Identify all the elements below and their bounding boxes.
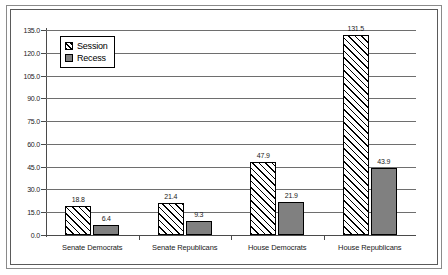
bar-session (65, 206, 91, 235)
x-axis-category-label: Senate Republicans (152, 243, 217, 252)
bar-value-label: 9.3 (194, 211, 203, 218)
x-axis-category-label: Senate Democrats (62, 243, 123, 252)
bar-session (343, 35, 369, 235)
x-axis-category-label: House Republicans (338, 243, 401, 252)
bar-recess (278, 202, 304, 235)
bar-recess (371, 168, 397, 235)
x-axis-tick (324, 235, 325, 240)
bar-session (250, 162, 276, 235)
legend-swatch-recess-icon (65, 54, 73, 62)
bar-value-label: 6.4 (102, 215, 111, 222)
bar-recess (186, 221, 212, 235)
y-axis-tick-label: 0.0 (0, 232, 40, 239)
chart-legend: Session Recess (60, 36, 115, 68)
y-axis-tick-label: 105.0 (0, 72, 40, 79)
legend-item-session: Session (65, 40, 108, 52)
legend-label-session: Session (77, 41, 108, 51)
y-axis-tick-label: 75.0 (0, 118, 40, 125)
y-axis-tick-label: 135.0 (0, 27, 40, 34)
bar-value-label: 21.9 (285, 192, 298, 199)
legend-swatch-session-icon (65, 42, 73, 50)
y-axis-tick-label: 30.0 (0, 186, 40, 193)
y-axis-tick-label: 15.0 (0, 209, 40, 216)
legend-item-recess: Recess (65, 52, 108, 64)
bar-recess (93, 225, 119, 235)
legend-label-recess: Recess (77, 53, 106, 63)
bar-value-label: 18.8 (72, 196, 85, 203)
bar-value-label: 47.9 (257, 152, 270, 159)
bar-value-label: 21.4 (164, 193, 177, 200)
chart-figure: 0.015.030.045.060.075.090.0105.0120.0135… (0, 0, 448, 275)
x-axis-category-label: House Democrats (248, 243, 307, 252)
y-axis-tick-label: 90.0 (0, 95, 40, 102)
y-axis-tick-label: 45.0 (0, 163, 40, 170)
bar-value-label: 131.5 (347, 25, 364, 32)
bar-value-label: 43.9 (377, 158, 390, 165)
y-axis-tick-label: 60.0 (0, 140, 40, 147)
bar-session (158, 203, 184, 235)
x-axis-tick (139, 235, 140, 240)
y-axis-tick-labels: 0.015.030.045.060.075.090.0105.0120.0135… (0, 30, 40, 235)
x-axis-tick (231, 235, 232, 240)
y-axis-tick-label: 120.0 (0, 49, 40, 56)
